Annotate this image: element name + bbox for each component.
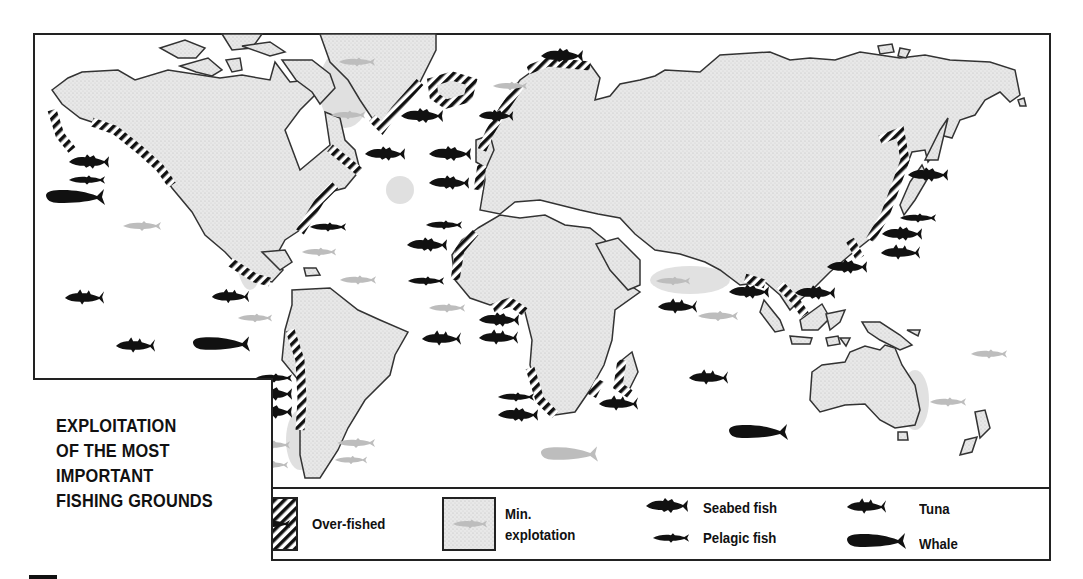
pelagic-fish-marker: [335, 456, 367, 465]
whale-icon: [847, 533, 906, 549]
pelagic-fish-marker: [429, 303, 465, 313]
pelagic-fish-marker: [930, 397, 966, 407]
tuna-fish-marker: [212, 289, 249, 304]
tuna-fish-marker: [422, 330, 461, 345]
whale-fish-marker: [46, 189, 105, 205]
legend-min-exploitation-swatch: [443, 498, 495, 550]
title-line-4: FISHING GROUNDS: [56, 488, 213, 513]
seabed-fish-marker: [407, 237, 447, 251]
tuna-fish-marker: [65, 289, 104, 304]
pelagic-fish-marker: [340, 275, 376, 285]
pelagic-fish-marker: [900, 213, 936, 223]
tuna-icon: [847, 498, 886, 513]
pelagic-fish-marker: [69, 175, 105, 185]
tuna-fish-marker: [479, 329, 518, 344]
pelagic-fish-marker: [698, 311, 738, 322]
title-line-3: IMPORTANT: [56, 463, 213, 488]
title-line-1: EXPLOITATION: [56, 413, 213, 438]
corner-mark: [29, 575, 57, 579]
map-title: EXPLOITATION OF THE MOST IMPORTANT FISHI…: [56, 413, 213, 513]
whale-fish-marker: [729, 424, 788, 440]
australia: [810, 345, 920, 428]
seabed-fish-marker: [479, 312, 519, 326]
seabed-fish-marker: [401, 108, 443, 123]
tuna-fish-marker: [689, 369, 728, 384]
pelagic-fish-marker: [238, 314, 272, 323]
pelagic-fish-marker: [498, 392, 534, 402]
pelagic-fish-marker: [310, 222, 346, 232]
seabed-fish-marker: [365, 146, 405, 160]
legend-label-overfished: Over-fished: [312, 514, 385, 533]
legend-divider: [273, 487, 1051, 489]
legend-label-tuna: Tuna: [919, 499, 950, 518]
seabed-fish-marker: [429, 175, 469, 189]
legend-label-min-line2: explotation: [505, 525, 575, 544]
whale-fish-marker: [541, 446, 598, 461]
tuna-fish-marker: [881, 244, 920, 259]
pelagic-fish-marker: [302, 248, 336, 257]
pelagic-fish-marker: [971, 349, 1007, 359]
seabed-fish-icon: [646, 498, 688, 513]
tuna-fish-marker: [599, 395, 638, 410]
pelagic-fish-marker: [123, 221, 161, 231]
legend-label-min-line1: Min.: [505, 504, 531, 523]
legend-label-whale: Whale: [919, 534, 958, 553]
seabed-fish-marker: [498, 407, 538, 421]
pelagic-fish-icon: [653, 533, 689, 543]
tuna-fish-marker: [658, 298, 697, 313]
seabed-fish-marker: [882, 226, 922, 240]
pelagic-fish-marker: [408, 276, 444, 286]
tuna-fish-marker: [116, 337, 155, 352]
seabed-fish-marker: [69, 154, 109, 168]
whale-fish-marker: [193, 336, 250, 351]
legend-label-seabed: Seabed fish: [703, 498, 777, 517]
title-line-2: OF THE MOST: [56, 438, 213, 463]
legend-label-pelagic: Pelagic fish: [703, 528, 776, 547]
pelagic-fish-marker: [426, 220, 462, 230]
seabed-fish-marker: [429, 146, 471, 161]
